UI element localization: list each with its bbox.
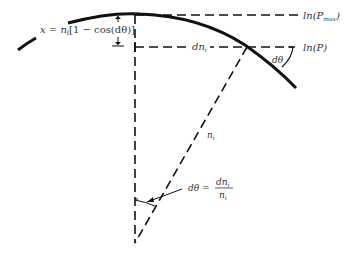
x-arrowhead-bottom — [115, 42, 121, 45]
dtheta-equation-numerator: dni — [216, 177, 230, 188]
ln-p-label: ln(P) — [303, 42, 327, 53]
curve-left-segment — [18, 38, 36, 50]
ln-pmax-label: ln(Pmax) — [303, 10, 340, 22]
n-i-label: ni — [207, 130, 215, 141]
dtheta-equation-lhs: dθ = — [188, 183, 210, 193]
dtheta-equation-denominator: ni — [219, 190, 227, 201]
dtheta-leader-arrowhead — [147, 197, 154, 202]
dn-i-label: dni — [192, 41, 207, 53]
diagonal-radius-line — [135, 47, 247, 243]
x-formula-label: x = ni[1 − cos(dθ)] — [40, 24, 135, 37]
diagram-canvas: x = ni[1 − cos(dθ)] ln(Pmax) ln(P) dni d… — [0, 0, 346, 255]
dtheta-angle-arc — [282, 47, 293, 67]
x-arrowhead-top — [115, 16, 121, 19]
dtheta-angle-label: dθ — [272, 55, 284, 65]
